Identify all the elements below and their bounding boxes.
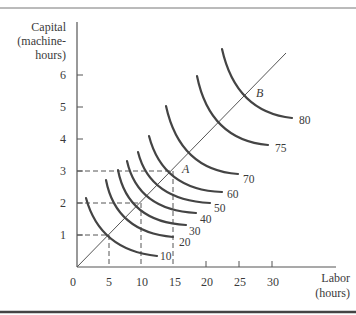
x-axis-title-line1: Labor	[321, 271, 350, 285]
x-tick-label: 20	[201, 275, 213, 289]
y-tick-label: 1	[60, 228, 66, 242]
x-tick-label: 15	[169, 275, 181, 289]
y-tick-label: 2	[60, 196, 66, 210]
isoquant-label-40: 40	[200, 213, 212, 225]
y-tick-label: 5	[60, 100, 66, 114]
isoquant-label-70: 70	[243, 173, 255, 185]
isoquant-chart: 1 2 3 4 5 6 0 5 10 15 20 25 30 Capital (…	[0, 0, 356, 315]
x-tick-label: 30	[267, 275, 279, 289]
isoquant-label-20: 20	[179, 236, 191, 248]
isoquant-label-50: 50	[214, 202, 226, 214]
y-axis-title-line1: Capital	[31, 20, 66, 34]
point-a-label: A	[181, 162, 190, 176]
x-tick-label: 5	[106, 275, 112, 289]
expansion-path-ray	[77, 53, 286, 267]
isoquant-label-80: 80	[299, 114, 311, 126]
x-axis-title-line2: (hours)	[315, 286, 350, 300]
x-tick-label: 25	[234, 275, 246, 289]
x-tick-label: 0	[70, 275, 76, 289]
isoquant-label-30: 30	[189, 225, 201, 237]
isoquant-70	[166, 106, 238, 174]
y-tick-label: 4	[60, 132, 66, 146]
isoquant-label-60: 60	[227, 188, 239, 200]
isoquant-label-75: 75	[275, 142, 287, 154]
y-tick-label: 6	[60, 68, 66, 82]
y-axis-title-line2: (machine-	[17, 34, 66, 48]
y-axis-title-line3: hours)	[35, 48, 66, 62]
point-b-label: B	[256, 86, 264, 100]
x-tick-label: 10	[136, 275, 148, 289]
isoquant-label-10: 10	[160, 250, 172, 262]
x-ticks	[206, 261, 272, 267]
y-tick-label: 3	[60, 164, 66, 178]
y-ticks	[77, 75, 83, 235]
